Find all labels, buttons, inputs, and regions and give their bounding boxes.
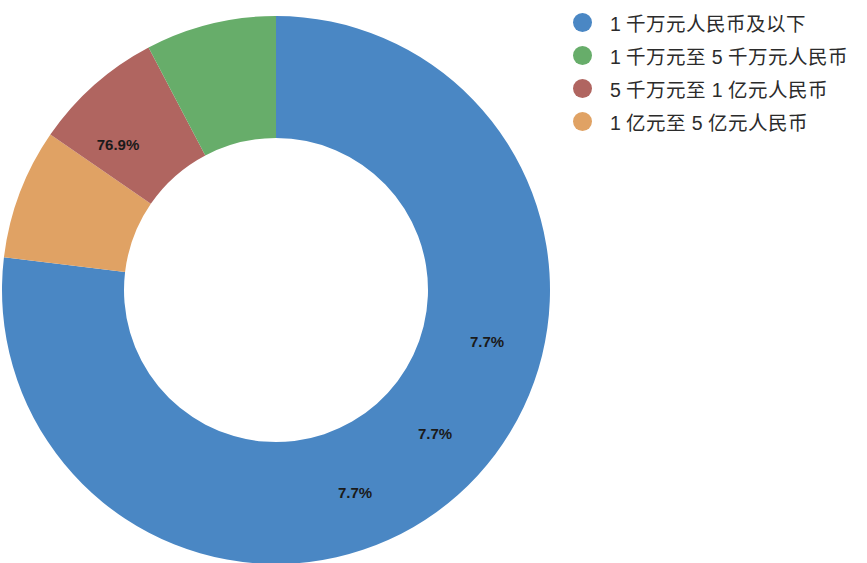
donut-chart-svg: 76.9% 7.7% 7.7% 7.7%	[0, 0, 560, 563]
circle-marker-icon	[573, 13, 592, 32]
legend-item-3[interactable]: 1 亿元至 5 亿元人民币	[568, 105, 867, 138]
legend-label-3: 1 亿元至 5 亿元人民币	[610, 107, 808, 136]
legend-label-2: 5 千万元至 1 亿元人民币	[610, 74, 828, 103]
legend-label-0: 1 千万元人民币及以下	[610, 8, 806, 37]
circle-marker-icon	[573, 79, 592, 98]
chart-legend: 1 千万元人民币及以下 1 千万元至 5 千万元人民币 5 千万元至 1 亿元人…	[568, 6, 867, 138]
donut-chart-figure: 76.9% 7.7% 7.7% 7.7% 1 千万元人民币及以下 1 千万元至 …	[0, 0, 867, 563]
donut-label-orange: 7.7%	[470, 333, 504, 350]
circle-marker-icon	[573, 112, 592, 131]
donut-label-blue: 76.9%	[97, 136, 140, 153]
circle-marker-icon	[573, 46, 592, 65]
donut-chart-plot-area: 76.9% 7.7% 7.7% 7.7%	[0, 0, 560, 563]
legend-item-2[interactable]: 5 千万元至 1 亿元人民币	[568, 72, 867, 105]
legend-item-1[interactable]: 1 千万元至 5 千万元人民币	[568, 39, 867, 72]
donut-label-red: 7.7%	[418, 425, 452, 442]
legend-item-0[interactable]: 1 千万元人民币及以下	[568, 6, 867, 39]
legend-label-1: 1 千万元至 5 千万元人民币	[610, 41, 848, 70]
donut-label-green: 7.7%	[338, 484, 372, 501]
